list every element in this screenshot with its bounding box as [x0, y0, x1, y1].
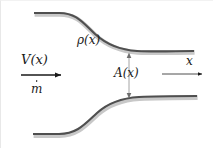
upper-duct-wall [34, 13, 195, 53]
lower-duct-wall [33, 96, 198, 136]
x-axis-label: x [186, 55, 193, 67]
mass-flow-dot-accent [36, 80, 38, 82]
figure-canvas [1, 1, 213, 148]
mass-flow-label: m [31, 83, 42, 95]
duct-flow-figure: V(x) m ρ(x) A(x) x [0, 0, 213, 148]
mass-flow-symbol: m [31, 82, 42, 96]
velocity-label: V(x) [21, 53, 48, 66]
area-label: A(x) [114, 67, 139, 79]
density-label: ρ(x) [77, 34, 100, 46]
